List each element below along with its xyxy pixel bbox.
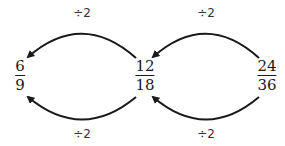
denominator: 36 [257,77,276,93]
label-bottom-left: ÷2 [73,127,91,141]
numerator: 12 [135,58,154,74]
denominator: 18 [135,77,154,93]
numerator: 24 [257,58,276,74]
denominator: 9 [15,77,25,93]
fraction-6-9: 6 9 [15,58,25,93]
fraction-24-36: 24 36 [257,58,276,93]
label-bottom-right: ÷2 [197,127,215,141]
numerator: 6 [15,58,25,74]
arrow-top-right [153,34,259,58]
label-top-left: ÷2 [73,6,91,20]
label-top-right: ÷2 [197,6,215,20]
fraction-12-18: 12 18 [135,58,154,93]
arrow-top-left [28,34,136,58]
arrow-bottom-left [28,97,136,120]
arrow-bottom-right [153,97,259,120]
